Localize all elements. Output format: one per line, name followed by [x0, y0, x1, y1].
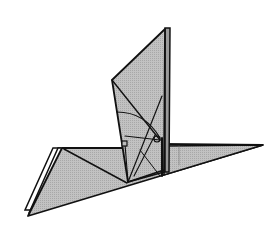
origami-diagram	[0, 0, 276, 233]
origami-bird-figure	[0, 0, 276, 233]
